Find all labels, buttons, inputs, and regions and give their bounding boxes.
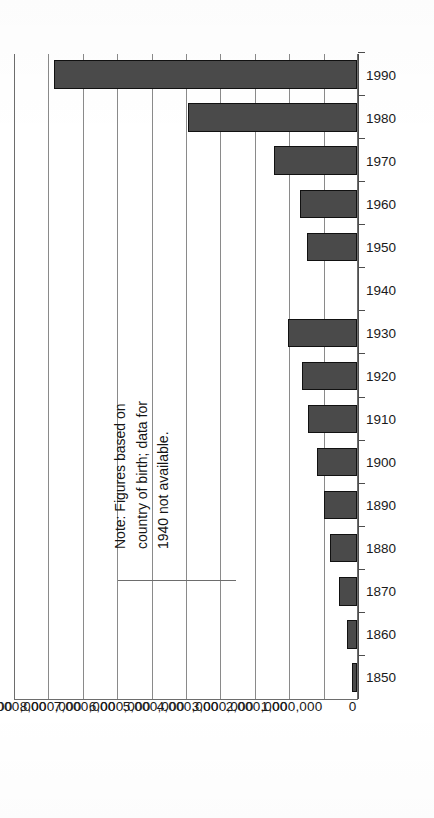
value-axis-label: 5,000,000 (177, 706, 192, 818)
category-tick (358, 353, 365, 354)
bar-1870 (339, 577, 357, 605)
category-label-1910: 1910 (366, 382, 381, 412)
value-axis-label: 0 (349, 706, 364, 818)
category-tick (358, 138, 365, 139)
value-axis-label: 9,000,000 (39, 706, 54, 818)
category-label-1930: 1930 (366, 296, 381, 326)
bar-1970 (274, 146, 357, 174)
bar-1990 (54, 60, 357, 88)
category-label-1890: 1890 (366, 468, 381, 498)
category-label-text: 1930 (366, 326, 396, 341)
category-label-1940: 1940 (366, 253, 381, 283)
bar-1930 (288, 319, 357, 347)
value-axis-label-text: 1,000,000 (260, 699, 322, 714)
category-label-text: 1960 (366, 197, 396, 212)
note-line-3: 1940 not available. (153, 299, 175, 549)
category-label-1950: 1950 (366, 210, 381, 240)
value-axis-label: 7,000,000 (108, 706, 123, 818)
category-tick (358, 181, 365, 182)
bar-1860 (347, 620, 357, 648)
bar-1890 (324, 491, 357, 519)
plot-area: 1850186018701880189019001910192019301940… (14, 54, 358, 700)
category-label-text: 1880 (366, 541, 396, 556)
category-tick (358, 224, 365, 225)
category-label-1850: 1850 (366, 640, 381, 670)
value-axis-label: 4,000,000 (211, 706, 226, 818)
category-label-1900: 1900 (366, 425, 381, 455)
category-tick (358, 440, 365, 441)
value-axis-label: 10,000,000 (5, 706, 20, 818)
category-label-text: 1900 (366, 455, 396, 470)
category-label-text: 1940 (366, 283, 396, 298)
category-label-text: 1970 (366, 154, 396, 169)
category-tick (358, 569, 365, 570)
category-label-text: 1870 (366, 584, 396, 599)
category-label-1870: 1870 (366, 554, 381, 584)
category-label-text: 1910 (366, 412, 396, 427)
note-line-1: Note: Figures based on (110, 299, 132, 549)
category-label-text: 1860 (366, 627, 396, 642)
bar-1960 (300, 190, 357, 218)
category-label-text: 1890 (366, 498, 396, 513)
scanned-page: 1850186018701880189019001910192019301940… (0, 0, 434, 818)
bar-1910 (308, 405, 357, 433)
category-label-1980: 1980 (366, 81, 381, 111)
category-label-text: 1980 (366, 111, 396, 126)
bar-1850 (352, 663, 357, 691)
category-tick (358, 95, 365, 96)
category-tick (358, 655, 365, 656)
category-label-text: 1950 (366, 240, 396, 255)
bar-1880 (330, 534, 357, 562)
category-label-text: 1990 (366, 68, 396, 83)
category-label-1970: 1970 (366, 124, 381, 154)
category-label-text: 1850 (366, 670, 396, 685)
category-label-1990: 1990 (366, 38, 381, 68)
category-label-1860: 1860 (366, 597, 381, 627)
bar-chart: 1850186018701880189019001910192019301940… (0, 0, 434, 818)
category-tick (358, 612, 365, 613)
bar-1980 (188, 103, 357, 131)
gridline-3000000 (255, 54, 256, 699)
category-tick (358, 526, 365, 527)
value-axis-label: 2,000,000 (280, 706, 295, 818)
bar-1920 (302, 362, 357, 390)
category-tick (358, 310, 365, 311)
value-axis-label: 6,000,000 (143, 706, 158, 818)
gridline-5000000 (186, 54, 187, 699)
category-tick (358, 52, 365, 53)
gridline-10000000 (14, 54, 15, 699)
chart-note: Note: Figures based on country of birth;… (110, 299, 175, 549)
gridline-4000000 (220, 54, 221, 699)
category-label-1920: 1920 (366, 339, 381, 369)
value-axis-label: 1,000,000 (315, 706, 330, 818)
value-axis-label: 3,000,000 (246, 706, 261, 818)
gridline-8000000 (83, 54, 84, 699)
bar-1900 (317, 448, 357, 476)
note-line-2: country of birth; data for (132, 299, 154, 549)
gridline-9000000 (48, 54, 49, 699)
category-tick (358, 483, 365, 484)
category-tick (358, 267, 365, 268)
rotated-figure-stage: 1850186018701880189019001910192019301940… (0, 0, 434, 818)
bar-1950 (307, 233, 357, 261)
category-label-1960: 1960 (366, 167, 381, 197)
note-leader-line (118, 580, 236, 581)
category-tick (358, 397, 365, 398)
category-label-1880: 1880 (366, 511, 381, 541)
category-label-text: 1920 (366, 369, 396, 384)
value-axis-label-text: 0 (349, 699, 357, 714)
value-axis-label: 8,000,000 (74, 706, 89, 818)
gridline-0 (358, 54, 359, 699)
